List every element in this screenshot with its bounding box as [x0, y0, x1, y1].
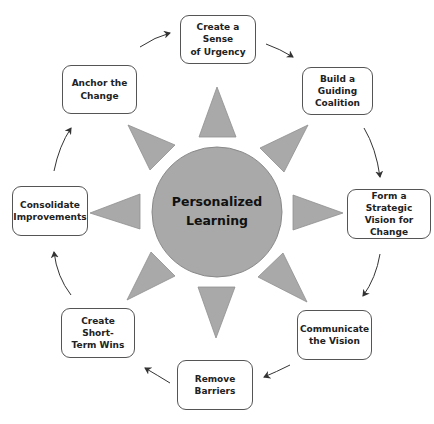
step-text: Coalition: [307, 97, 368, 109]
step-remove-barriers: RemoveBarriers: [177, 360, 253, 410]
step-communicate-vision: Communicatethe Vision: [297, 310, 372, 360]
arrow-2-to-3: [364, 128, 380, 177]
step-text: Vision for: [352, 214, 426, 226]
step-text: Change: [72, 90, 128, 102]
step-text: Form a Strategic: [352, 190, 426, 214]
step-text: Remove: [195, 373, 236, 385]
step-text: Create a Sense: [185, 21, 251, 45]
arrow-1-to-2: [266, 44, 293, 57]
arrow-4-to-5: [264, 365, 290, 377]
step-text: Build a Guiding: [307, 73, 368, 97]
step-text: the Vision: [300, 335, 369, 347]
step-text: Change: [352, 226, 426, 238]
center-label-line2: Learning: [172, 212, 262, 231]
arrow-6-to-7: [54, 252, 71, 295]
ray-triangle-bottom: [198, 287, 235, 338]
step-text: Communicate: [300, 323, 369, 335]
step-short-term-wins: Create Short-Term Wins: [61, 308, 135, 358]
step-anchor-change: Anchor theChange: [62, 65, 137, 114]
step-text: Anchor the: [72, 77, 128, 89]
arrow-5-to-6: [145, 368, 170, 383]
ray-triangle-left: [90, 194, 140, 229]
step-consolidate: ConsolidateImprovements: [12, 186, 88, 236]
arrow-3-to-4: [363, 254, 380, 296]
arrow-7-to-8: [54, 128, 71, 171]
center-label-line1: Personalized: [172, 193, 262, 212]
step-text: Barriers: [195, 385, 236, 397]
center-label: Personalized Learning: [152, 147, 282, 277]
step-text: Consolidate: [13, 199, 86, 211]
step-build-coalition: Build a GuidingCoalition: [302, 67, 373, 115]
step-text: Improvements: [13, 211, 86, 223]
step-text: of Urgency: [185, 46, 251, 58]
ray-triangle-right: [293, 195, 343, 230]
step-text: Create Short-: [66, 315, 130, 339]
step-form-vision: Form a StrategicVision forChange: [347, 189, 431, 239]
ray-triangle-top: [199, 87, 236, 137]
arrow-8-to-1: [140, 33, 170, 47]
step-text: Term Wins: [66, 339, 130, 351]
step-create-urgency: Create a Senseof Urgency: [180, 15, 256, 64]
